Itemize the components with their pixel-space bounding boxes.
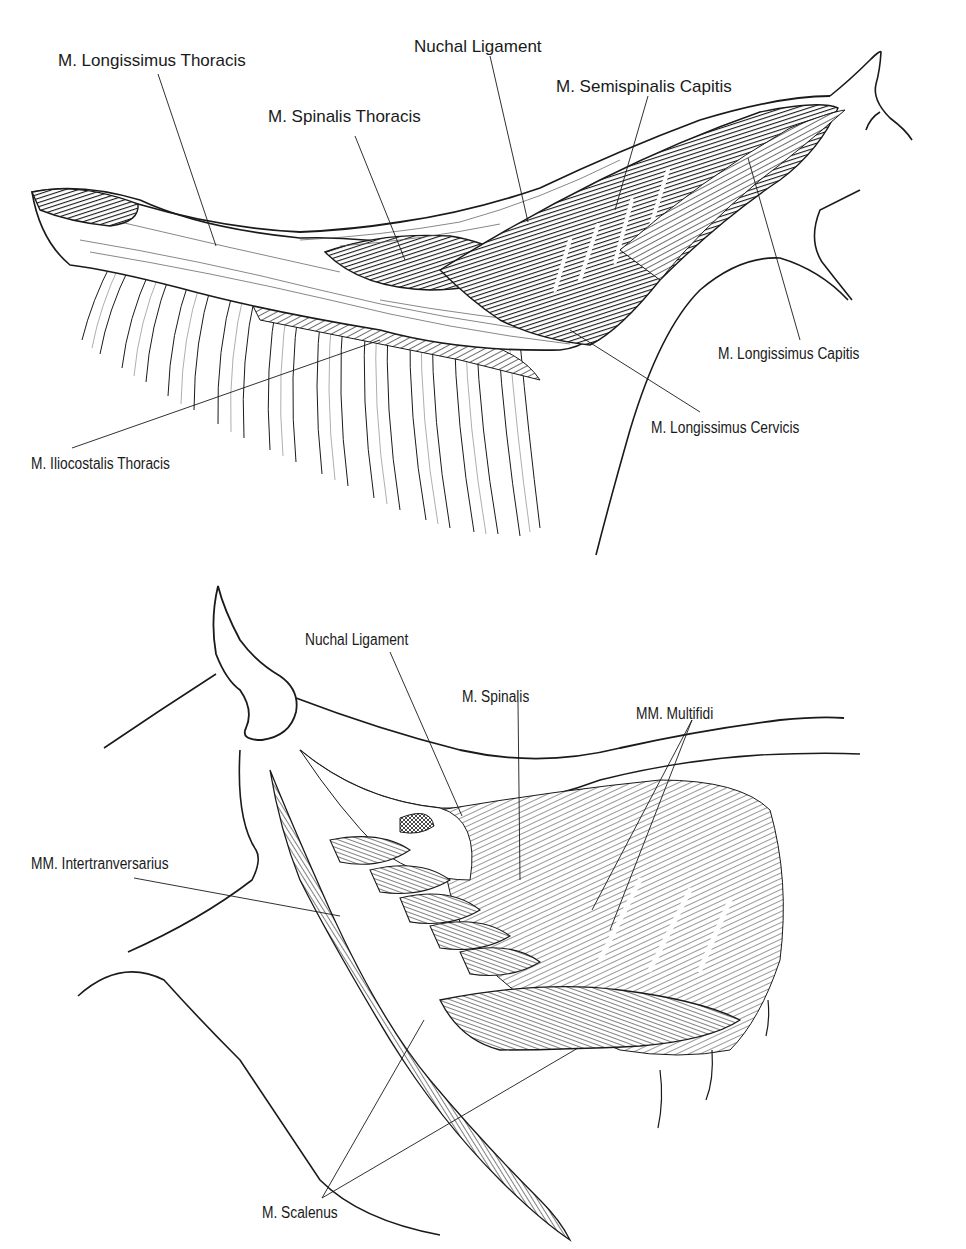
label-multifidi: MM. Multifidi: [636, 706, 713, 722]
label-spinalis-thoracis: M. Spinalis Thoracis: [268, 108, 421, 125]
label-intertransversarius: MM. Intertranversarius: [31, 856, 169, 872]
label-longissimus-cervicis: M. Longissimus Cervicis: [651, 420, 799, 436]
label-longissimus-thoracis: M. Longissimus Thoracis: [58, 52, 246, 69]
face-outline: [104, 674, 216, 748]
head-outline: [814, 52, 912, 300]
label-nuchal-ligament-top: Nuchal Ligament: [414, 38, 542, 55]
epaxial-muscle-illustration: [0, 0, 966, 580]
figure-epaxial-muscles: M. Longissimus Thoracis Nuchal Ligament …: [0, 0, 966, 580]
chest-outline: [78, 972, 440, 1235]
crest-outline-upper: [296, 698, 844, 759]
deep-neck-muscle-illustration: [0, 580, 966, 1249]
label-semispinalis-capitis: M. Semispinalis Capitis: [556, 78, 732, 95]
throat-outline: [128, 750, 258, 952]
label-scalenus: M. Scalenus: [262, 1205, 338, 1221]
figure-deep-neck-muscles: Nuchal Ligament M. Spinalis MM. Multifid…: [0, 580, 966, 1249]
label-longissimus-capitis: M. Longissimus Capitis: [718, 346, 859, 362]
label-nuchal-ligament-bottom: Nuchal Ligament: [305, 632, 408, 648]
label-iliocostalis-thoracis: M. Iliocostalis Thoracis: [31, 456, 170, 472]
skull-outline: [213, 586, 296, 740]
label-spinalis: M. Spinalis: [462, 689, 529, 705]
